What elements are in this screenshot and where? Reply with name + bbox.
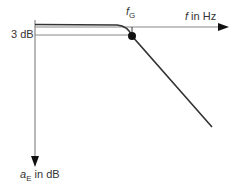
3db-label-text: 3 dB [11, 28, 34, 40]
cutoff-frequency-label: fG [126, 5, 135, 20]
x-axis-arrow-icon [218, 23, 229, 31]
y-axis-arrow-icon [31, 156, 39, 167]
y-axis-unit: in dB [31, 168, 59, 180]
cutoff-point [128, 32, 136, 40]
x-axis-unit: in Hz [188, 10, 216, 22]
response-curve [35, 25, 212, 128]
y-axis-label: aE in dB [20, 168, 60, 183]
3db-label: 3 dB [11, 28, 34, 40]
bode-diagram [0, 0, 240, 188]
cutoff-sub: G [129, 11, 135, 20]
x-axis-label: f in Hz [185, 10, 216, 22]
